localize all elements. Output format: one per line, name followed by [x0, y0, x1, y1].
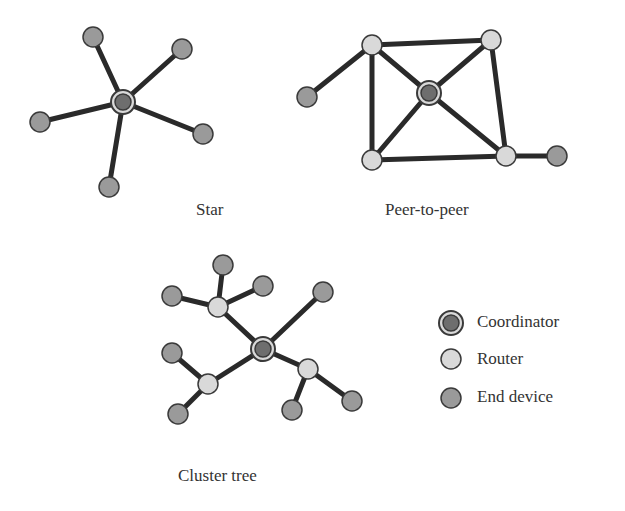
end-device-node: [253, 276, 273, 296]
legend-router-label: Router: [477, 349, 523, 369]
link-edge: [307, 45, 372, 97]
end-device-node: [441, 388, 461, 408]
end-device-node: [172, 39, 192, 59]
legend-end-device-label: End device: [477, 387, 553, 407]
end-device-node: [213, 255, 233, 275]
router-node: [441, 349, 461, 369]
link-edge: [372, 93, 429, 160]
peer-to-peer-topology: [297, 30, 567, 170]
end-device-node: [297, 87, 317, 107]
star-label: Star: [196, 200, 223, 220]
end-device-node: [547, 146, 567, 166]
router-node: [298, 359, 318, 379]
link-edge: [372, 40, 491, 45]
cluster-tree-label: Cluster tree: [178, 466, 257, 486]
end-device-node: [162, 286, 182, 306]
end-device-node: [193, 124, 213, 144]
coordinator-node: [251, 337, 275, 361]
link-edge: [429, 93, 506, 156]
router-node: [496, 146, 516, 166]
link-edge: [491, 40, 506, 156]
end-device-node: [168, 404, 188, 424]
router-node: [362, 35, 382, 55]
coordinator-node: [417, 81, 441, 105]
end-device-node: [83, 27, 103, 47]
end-device-node: [30, 112, 50, 132]
router-node: [198, 374, 218, 394]
end-device-node: [162, 343, 182, 363]
end-device-node: [282, 400, 302, 420]
legend-coordinator-label: Coordinator: [477, 312, 559, 332]
star-topology: [30, 27, 213, 197]
end-device-node: [342, 391, 362, 411]
peer-to-peer-label: Peer-to-peer: [385, 200, 469, 220]
router-node: [362, 150, 382, 170]
legend: [439, 311, 463, 408]
coordinator-node: [439, 311, 463, 335]
end-device-node: [99, 177, 119, 197]
link-edge: [372, 156, 506, 160]
router-node: [481, 30, 501, 50]
end-device-node: [313, 282, 333, 302]
router-node: [208, 297, 228, 317]
coordinator-node: [111, 90, 135, 114]
cluster-tree-topology: [162, 255, 362, 424]
network-topology-diagram: [0, 0, 625, 511]
